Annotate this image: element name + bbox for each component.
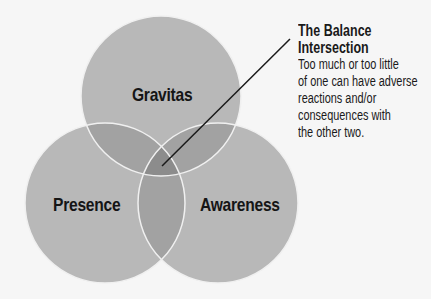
label-gravitas: Gravitas [132, 84, 192, 106]
callout-body-line: Too much or too little [298, 56, 423, 73]
callout: The Balance Intersection Too much or too… [298, 22, 423, 141]
callout-body-line: reactions and/or [298, 90, 423, 107]
callout-title-line2: Intersection [298, 39, 423, 56]
callout-title-line1: The Balance [298, 22, 423, 39]
callout-body-line: the other two. [298, 124, 423, 141]
label-presence: Presence [53, 194, 120, 216]
callout-body: Too much or too little of one can have a… [298, 56, 423, 141]
callout-body-line: consequences with [298, 107, 423, 124]
label-awareness: Awareness [200, 194, 280, 216]
callout-body-line: of one can have adverse [298, 73, 423, 90]
